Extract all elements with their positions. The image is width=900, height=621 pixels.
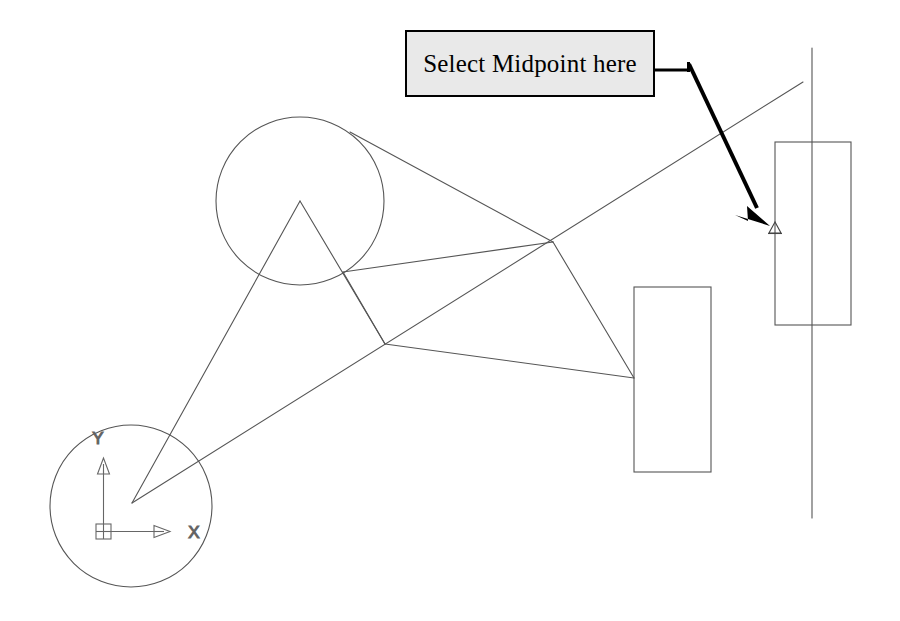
lower-left-branch-line	[343, 272, 385, 344]
ucs-icon: Y X	[92, 429, 199, 542]
long-diagonal-line	[132, 82, 803, 503]
callout-box[interactable]: Select Midpoint here	[405, 30, 655, 97]
upper-short-chord-line	[343, 242, 553, 272]
middle-rectangle	[634, 287, 711, 472]
lower-left-circle	[50, 425, 212, 587]
midvertex-to-rect-line	[385, 344, 634, 378]
ucs-x-axis-label: X	[188, 523, 199, 542]
leader-diagonal-shaft	[689, 64, 757, 208]
right-rectangle	[775, 142, 851, 325]
cad-drawing-canvas: Y X Select Midpoint here	[0, 0, 900, 621]
crossvertex-to-rect-line	[553, 242, 634, 378]
left-riser-line	[132, 201, 300, 503]
geometry-layer	[50, 48, 851, 587]
ucs-y-axis-label: Y	[92, 429, 103, 448]
leader-arrow-head-icon	[735, 206, 770, 226]
callout-label: Select Midpoint here	[423, 50, 637, 78]
callout-leader	[655, 62, 770, 226]
